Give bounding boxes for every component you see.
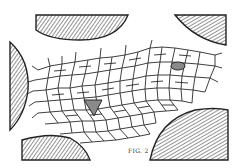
shaded-cell-upper-right: [171, 62, 185, 70]
hatched-region-top-left: [36, 15, 128, 40]
hatched-region-bottom-right: [150, 109, 228, 161]
hatched-region-bottom-left: [22, 135, 90, 160]
figure-label: FIG. 2: [128, 147, 149, 154]
shaded-cell-center-left: [84, 100, 102, 116]
hatched-region-top-right: [175, 15, 226, 45]
tissue-illustration: [0, 0, 237, 168]
hatched-region-left: [10, 42, 28, 130]
